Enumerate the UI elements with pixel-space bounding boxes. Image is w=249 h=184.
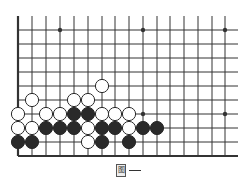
black-stone <box>67 121 80 134</box>
black-stone <box>67 107 80 120</box>
white-stone <box>25 121 38 134</box>
black-stone <box>81 107 94 120</box>
black-stone <box>39 121 52 134</box>
diagram-caption: 图 <box>116 164 141 177</box>
star-point <box>223 28 227 32</box>
star-point <box>141 112 145 116</box>
black-stone <box>25 135 38 148</box>
star-point <box>58 28 62 32</box>
black-stone <box>11 135 24 148</box>
black-stone <box>122 135 135 148</box>
white-stone <box>67 93 80 106</box>
diagram-label-icon: 图 <box>116 164 126 177</box>
go-board <box>0 0 249 160</box>
white-stone <box>81 93 94 106</box>
white-stone <box>81 121 94 134</box>
white-stone <box>108 107 121 120</box>
black-stone <box>136 121 149 134</box>
white-stone <box>53 107 66 120</box>
white-stone <box>122 107 135 120</box>
white-stone <box>11 107 24 120</box>
white-stone <box>95 107 108 120</box>
star-point <box>141 28 145 32</box>
white-stone <box>11 121 24 134</box>
white-stone <box>25 93 38 106</box>
white-stone <box>122 121 135 134</box>
black-stone <box>95 135 108 148</box>
white-stone <box>81 135 94 148</box>
black-stone <box>108 121 121 134</box>
black-stone <box>150 121 163 134</box>
white-stone <box>39 107 52 120</box>
black-stone <box>53 121 66 134</box>
black-stone <box>95 121 108 134</box>
caption-dash <box>129 170 141 171</box>
white-stone <box>95 79 108 92</box>
star-point <box>223 112 227 116</box>
